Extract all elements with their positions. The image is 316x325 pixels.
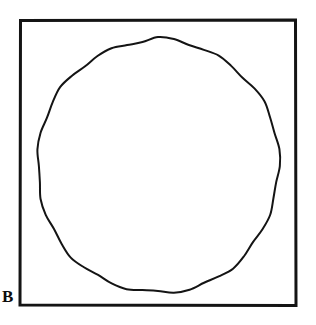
canvas-background <box>0 0 316 325</box>
figure-panel: B <box>0 0 316 325</box>
figure-canvas <box>0 0 316 325</box>
panel-label-b: B <box>2 287 18 307</box>
